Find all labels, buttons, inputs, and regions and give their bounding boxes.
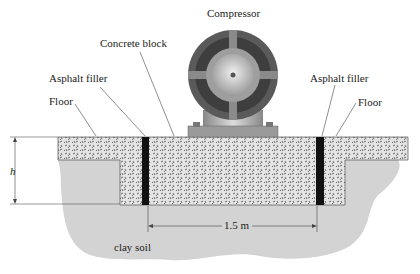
floor-left-label: Floor — [49, 96, 73, 107]
floor-right-label: Floor — [358, 97, 382, 108]
asphalt-filler-left — [142, 137, 149, 205]
compressor — [188, 30, 278, 137]
asphalt-filler-right-label: Asphalt filler — [310, 73, 368, 84]
compressor-label: Compressor — [207, 8, 260, 19]
soil-label: clay soil — [114, 242, 151, 253]
concrete-block-label: Concrete block — [100, 38, 167, 49]
width-label: 1.5 m — [224, 220, 249, 231]
asphalt-filler-left-label: Asphalt filler — [49, 73, 107, 84]
asphalt-filler-right — [316, 137, 324, 205]
height-label: h — [10, 166, 16, 177]
foundation-diagram — [0, 0, 420, 274]
